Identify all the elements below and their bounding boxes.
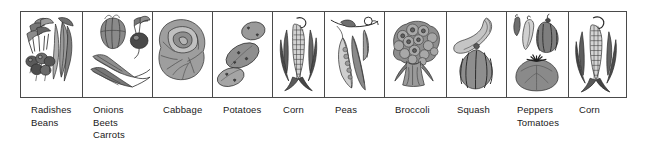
three-potatoes-icon [213,12,272,97]
label-cell-peas: Peas [324,101,384,151]
panel-label-line: Onions [93,104,152,117]
label-row: Radishes Beans Onions Beets Carrots Cabb… [20,101,627,151]
label-cell-corn-left: Corn [272,101,324,151]
panel-peppers-tomatoes[interactable] [507,12,569,97]
label-cell-cabbage: Cabbage [152,101,212,151]
panel-label-line: Squash [457,104,506,117]
panel-label-line: Tomatoes [517,117,568,130]
panel-squash[interactable] [447,12,507,97]
panel-corn-right[interactable] [569,12,626,97]
panel-label-line: Cabbage [163,104,212,117]
pea-pods-on-vine-icon [325,12,384,97]
cabbage-head-icon [153,12,212,97]
label-cell-broccoli: Broccoli [384,101,446,151]
label-cell-potatoes: Potatoes [212,101,272,151]
panel-label-line: Peppers [517,104,568,117]
panel-label-line: Broccoli [395,104,446,117]
panel-strip [20,11,627,98]
panel-broccoli[interactable] [385,12,447,97]
panel-potatoes[interactable] [213,12,273,97]
panel-label-line: Potatoes [223,104,272,117]
broccoli-crown-icon [385,12,446,97]
corn-ear-with-husk-icon [273,12,324,97]
panel-label-line: Corn [283,104,324,117]
corn-ear-with-husk-icon [569,12,626,97]
label-cell-corn-right: Corn [568,101,625,151]
panel-radishes-beans[interactable] [21,12,83,97]
panel-onions-beets-carrots[interactable] [83,12,153,97]
panel-label-line: Peas [335,104,384,117]
label-cell-onions-beets-carrots: Onions Beets Carrots [82,101,152,151]
panel-cabbage[interactable] [153,12,213,97]
label-cell-radishes-beans: Radishes Beans [20,101,82,151]
panel-peas[interactable] [325,12,385,97]
peppers-and-tomato-icon [507,12,568,97]
panel-label-line: Beans [31,117,82,130]
onion-beet-and-carrots-icon [83,12,152,97]
vegetable-illustration-chart: Radishes Beans Onions Beets Carrots Cabb… [0,0,650,155]
panel-label-line: Radishes [31,104,82,117]
radishes-and-bean-pods-icon [21,12,82,97]
label-cell-squash: Squash [446,101,506,151]
label-cell-peppers-tomatoes: Peppers Tomatoes [506,101,568,151]
panel-label-line: Corn [579,104,625,117]
panel-label-line: Carrots [93,129,152,142]
panel-label-line: Beets [93,117,152,130]
panel-corn-left[interactable] [273,12,325,97]
crookneck-and-acorn-squash-icon [447,12,506,97]
